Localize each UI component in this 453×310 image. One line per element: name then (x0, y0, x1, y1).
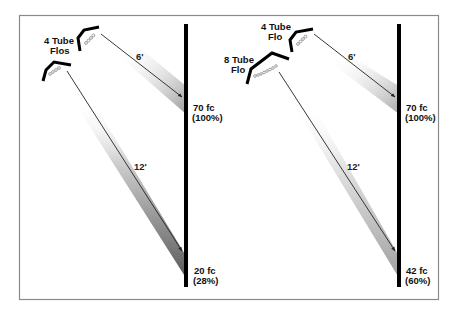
near-distance-label: 6' (136, 51, 144, 62)
near-distance-label: 6' (348, 51, 356, 62)
far-distance-label: 12' (134, 161, 147, 172)
wall (184, 24, 188, 287)
fixture-label: Flos (50, 45, 70, 56)
wall (397, 24, 401, 287)
far-fc-percent: (28%) (193, 275, 218, 286)
fixture-label: Flo (268, 31, 282, 42)
near-fc-percent: (100%) (192, 112, 223, 123)
lighting-distance-diagram: 4 Tube Flos 6' 12' 70 fc (100%) 20 fc (2… (0, 0, 453, 310)
fixture-label: Flo (231, 64, 245, 75)
near-fc-percent: (100%) (405, 112, 436, 123)
far-distance-label: 12' (347, 161, 360, 172)
far-fc-percent: (60%) (405, 275, 430, 286)
